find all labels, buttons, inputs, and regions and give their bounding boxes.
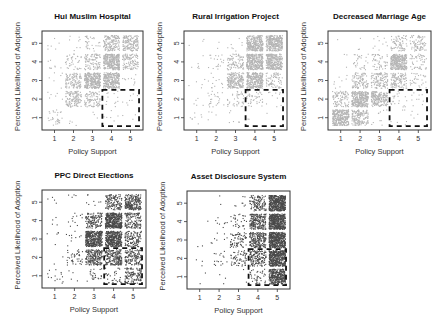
data-point: [341, 80, 342, 81]
data-point: [355, 83, 356, 84]
data-point: [393, 58, 394, 59]
data-point: [90, 86, 91, 87]
data-point: [255, 61, 256, 62]
data-point: [270, 77, 271, 78]
data-point: [95, 215, 96, 216]
x-tick-label: 1: [53, 135, 57, 142]
data-point: [90, 68, 91, 69]
data-point: [237, 85, 238, 86]
data-point: [249, 224, 250, 225]
data-point: [77, 95, 78, 96]
data-point: [269, 241, 270, 242]
data-point: [134, 208, 135, 209]
data-point: [348, 114, 349, 115]
data-point: [107, 54, 108, 55]
data-point: [271, 260, 272, 261]
data-point: [78, 81, 79, 82]
data-point: [363, 74, 364, 75]
data-point: [254, 209, 255, 210]
data-point: [138, 242, 139, 243]
data-point: [190, 117, 191, 118]
data-point: [260, 265, 261, 266]
data-point: [273, 251, 274, 252]
data-point: [371, 94, 372, 95]
data-point: [273, 280, 274, 281]
data-point: [140, 279, 141, 280]
data-point: [281, 228, 282, 229]
data-point: [265, 216, 266, 217]
data-point: [272, 263, 273, 264]
data-point: [269, 218, 270, 219]
data-point: [71, 81, 72, 82]
data-point: [254, 84, 255, 85]
data-point: [125, 259, 126, 260]
data-point: [254, 204, 255, 205]
data-point: [78, 94, 79, 95]
data-point: [114, 264, 115, 265]
data-point: [114, 252, 115, 253]
data-point: [257, 47, 258, 48]
data-point: [263, 222, 264, 223]
data-point: [336, 96, 337, 97]
data-point: [127, 57, 128, 58]
data-point: [275, 250, 276, 251]
data-point: [251, 216, 252, 217]
data-point: [261, 205, 262, 206]
data-point: [276, 234, 277, 235]
data-point: [112, 282, 113, 283]
data-point: [97, 55, 98, 56]
data-point: [48, 61, 49, 62]
data-point: [137, 235, 138, 236]
data-point: [93, 277, 94, 278]
data-point: [132, 48, 133, 49]
data-point: [116, 206, 117, 207]
data-point: [265, 210, 266, 211]
data-point: [138, 220, 139, 221]
data-point: [278, 62, 279, 63]
data-point: [262, 227, 263, 228]
data-point: [131, 196, 132, 197]
data-point: [237, 97, 238, 98]
data-point: [106, 238, 107, 239]
data-point: [398, 76, 399, 77]
data-point: [392, 65, 393, 66]
data-point: [135, 260, 136, 261]
data-point: [260, 216, 261, 217]
data-point: [123, 57, 124, 58]
data-point: [236, 95, 237, 96]
data-point: [72, 78, 73, 79]
data-point: [277, 261, 278, 262]
data-point: [405, 78, 406, 79]
data-point: [280, 92, 281, 93]
data-point: [391, 63, 392, 64]
data-point: [85, 54, 86, 55]
data-point: [243, 68, 244, 69]
data-point: [422, 64, 423, 65]
data-point: [260, 272, 261, 273]
data-point: [86, 96, 87, 97]
data-point: [135, 225, 136, 226]
data-point: [115, 38, 116, 39]
data-point: [259, 39, 260, 40]
data-point: [123, 44, 124, 45]
data-point: [282, 45, 283, 46]
data-point: [237, 244, 238, 245]
data-point: [274, 272, 275, 273]
data-point: [253, 260, 254, 261]
data-point: [250, 47, 251, 48]
data-point: [268, 67, 269, 68]
data-point: [135, 36, 136, 37]
data-point: [413, 73, 414, 74]
data-point: [355, 97, 356, 98]
data-point: [270, 232, 271, 233]
data-point: [128, 251, 129, 252]
data-point: [116, 73, 117, 74]
data-point: [91, 99, 92, 100]
data-point: [383, 86, 384, 87]
data-point: [108, 50, 109, 51]
data-point: [100, 233, 101, 234]
data-point: [66, 76, 67, 77]
data-point: [277, 251, 278, 252]
data-point: [395, 73, 396, 74]
data-point: [251, 214, 252, 215]
